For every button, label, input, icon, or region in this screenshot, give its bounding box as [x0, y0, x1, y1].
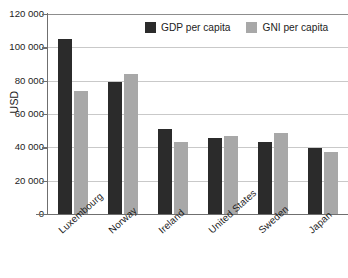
bar	[308, 148, 323, 214]
bar	[174, 142, 189, 215]
bars-layer	[48, 14, 348, 214]
y-tick-mark	[42, 81, 48, 82]
y-tick-label: 80 000	[0, 76, 44, 86]
legend-entry-gni[interactable]: GNI per capita	[246, 22, 328, 33]
bar	[58, 39, 73, 214]
bar	[74, 91, 89, 214]
y-tick-label: 40 000	[0, 142, 44, 152]
y-tick-label: 100 000	[0, 42, 44, 52]
bar	[124, 74, 139, 214]
y-tick-mark	[42, 181, 48, 182]
bar	[324, 152, 339, 214]
legend-label-gni: GNI per capita	[262, 22, 328, 33]
x-axis-tick-labels: LuxembourgNorwayIrelandUnited StatesSwed…	[0, 216, 348, 278]
chart-legend: GDP per capita GNI per capita	[145, 22, 328, 33]
legend-entry-gdp[interactable]: GDP per capita	[145, 22, 230, 33]
y-tick-label: 60 000	[0, 109, 44, 119]
bar	[258, 142, 273, 215]
legend-swatch-gni-icon	[246, 22, 257, 33]
bar	[158, 129, 173, 214]
y-tick-mark	[42, 47, 48, 48]
y-tick-label: 20 000	[0, 176, 44, 186]
y-tick-mark	[42, 214, 48, 215]
bar	[208, 138, 223, 214]
y-tick-mark	[42, 114, 48, 115]
y-tick-label: 120 000	[0, 9, 44, 19]
bar-chart-figure: USD 020 00040 00060 00080 000100 000120 …	[0, 0, 348, 278]
legend-swatch-gdp-icon	[145, 22, 156, 33]
y-tick-mark	[42, 14, 48, 15]
plot-area	[48, 14, 348, 214]
y-axis-tick-labels: 020 00040 00060 00080 000100 000120 000	[0, 0, 44, 220]
y-tick-mark	[42, 147, 48, 148]
bar	[274, 133, 289, 214]
legend-label-gdp: GDP per capita	[161, 22, 230, 33]
bar	[108, 82, 123, 214]
